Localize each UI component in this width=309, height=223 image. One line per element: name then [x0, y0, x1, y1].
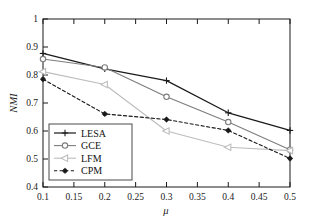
x-tick-label-0.2: 0.2: [99, 192, 111, 202]
y-axis-title: NMI: [8, 93, 19, 114]
y-tick-label-0.5: 0.5: [26, 154, 38, 164]
y-tick-label-0.9: 0.9: [26, 42, 38, 52]
x-tick-label-0.45: 0.45: [251, 192, 268, 202]
data-point-marker-cpm-1: [102, 111, 108, 117]
data-point-marker-lfm-1: [101, 81, 107, 87]
legend-label-lfm: LFM: [81, 153, 102, 164]
y-tick-label-0.6: 0.6: [26, 126, 38, 136]
y-axis-ticks: [43, 19, 48, 187]
data-point-marker-legend-gce: [62, 143, 67, 148]
data-point-marker-cpm-3: [225, 128, 231, 134]
y-tick-label-1: 1: [33, 14, 38, 24]
figure-container: 0.40.50.60.70.80.91 0.10.150.20.250.30.3…: [0, 0, 309, 223]
data-point-marker-gce-3: [226, 119, 231, 124]
x-axis-title: μ: [162, 205, 168, 216]
legend-label-lesa: LESA: [81, 128, 107, 139]
data-point-marker-cpm-0: [40, 76, 46, 82]
x-axis-tick-labels: 0.10.150.20.250.30.350.40.450.5: [37, 192, 296, 202]
x-tick-label-0.3: 0.3: [161, 192, 173, 202]
data-point-marker-lfm-0: [39, 68, 45, 74]
nmi-vs-mu-line-chart: 0.40.50.60.70.80.91 0.10.150.20.250.30.3…: [0, 0, 309, 223]
legend-label-cpm: CPM: [81, 165, 102, 176]
data-point-marker-gce-0: [40, 56, 45, 61]
x-tick-label-0.4: 0.4: [222, 192, 234, 202]
data-point-marker-lesa-0: [40, 50, 46, 56]
y-tick-label-0.4: 0.4: [26, 182, 38, 192]
y-tick-label-0.8: 0.8: [26, 70, 38, 80]
data-point-marker-lesa-2: [163, 77, 169, 83]
y-tick-label-0.7: 0.7: [26, 98, 38, 108]
y-axis-tick-labels: 0.40.50.60.70.80.91: [26, 14, 38, 192]
data-point-marker-cpm-2: [164, 117, 170, 123]
x-tick-label-0.1: 0.1: [37, 192, 49, 202]
legend-label-gce: GCE: [81, 140, 101, 151]
data-point-marker-cpm-4: [287, 156, 293, 162]
data-point-marker-lesa-3: [225, 110, 231, 116]
data-point-marker-gce-2: [164, 94, 169, 99]
x-tick-label-0.35: 0.35: [189, 192, 206, 202]
x-tick-label-0.25: 0.25: [127, 192, 144, 202]
data-point-marker-gce-1: [102, 65, 107, 70]
data-point-marker-lfm-3: [224, 144, 230, 150]
x-tick-label-0.5: 0.5: [284, 192, 296, 202]
x-tick-label-0.15: 0.15: [66, 192, 83, 202]
chart-legend: LESAGCELFMCPM: [49, 124, 132, 180]
data-point-marker-lesa-4: [287, 127, 293, 133]
